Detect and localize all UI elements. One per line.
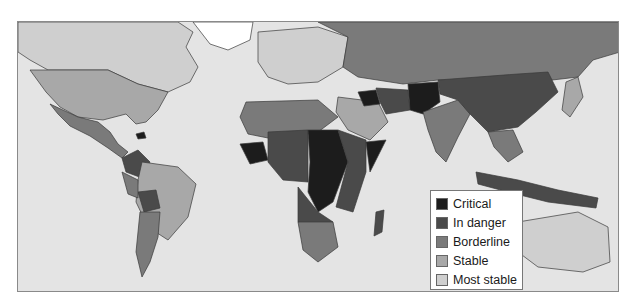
legend-item-in-danger: In danger bbox=[436, 213, 518, 232]
world-map bbox=[17, 21, 619, 292]
region-india bbox=[423, 100, 470, 162]
legend-swatch bbox=[436, 198, 448, 210]
map-legend: Critical In danger Borderline Stable Mos… bbox=[430, 190, 523, 290]
legend-label: In danger bbox=[453, 216, 506, 230]
legend-swatch bbox=[436, 217, 448, 229]
region-madagascar bbox=[374, 210, 384, 236]
region-se-asia bbox=[488, 130, 523, 162]
legend-swatch bbox=[436, 236, 448, 248]
legend-swatch bbox=[436, 274, 448, 286]
region-greenland bbox=[193, 22, 253, 50]
legend-label: Borderline bbox=[453, 235, 510, 249]
legend-label: Critical bbox=[453, 197, 491, 211]
legend-item-stable: Stable bbox=[436, 251, 518, 270]
region-europe bbox=[258, 27, 348, 84]
region-south-africa bbox=[298, 222, 338, 262]
region-horn-africa bbox=[366, 140, 386, 172]
legend-swatch bbox=[436, 255, 448, 267]
map-graphic bbox=[18, 22, 619, 292]
legend-item-borderline: Borderline bbox=[436, 232, 518, 251]
legend-item-critical: Critical bbox=[436, 194, 518, 213]
legend-label: Most stable bbox=[453, 273, 517, 287]
region-haiti bbox=[136, 132, 146, 139]
legend-item-most-stable: Most stable bbox=[436, 270, 518, 289]
region-japan bbox=[562, 77, 583, 117]
region-sahel bbox=[268, 130, 308, 182]
region-west-africa bbox=[240, 142, 268, 164]
region-argentina bbox=[136, 212, 160, 277]
legend-label: Stable bbox=[453, 254, 488, 268]
region-russia bbox=[318, 22, 619, 84]
region-australia bbox=[518, 212, 610, 272]
